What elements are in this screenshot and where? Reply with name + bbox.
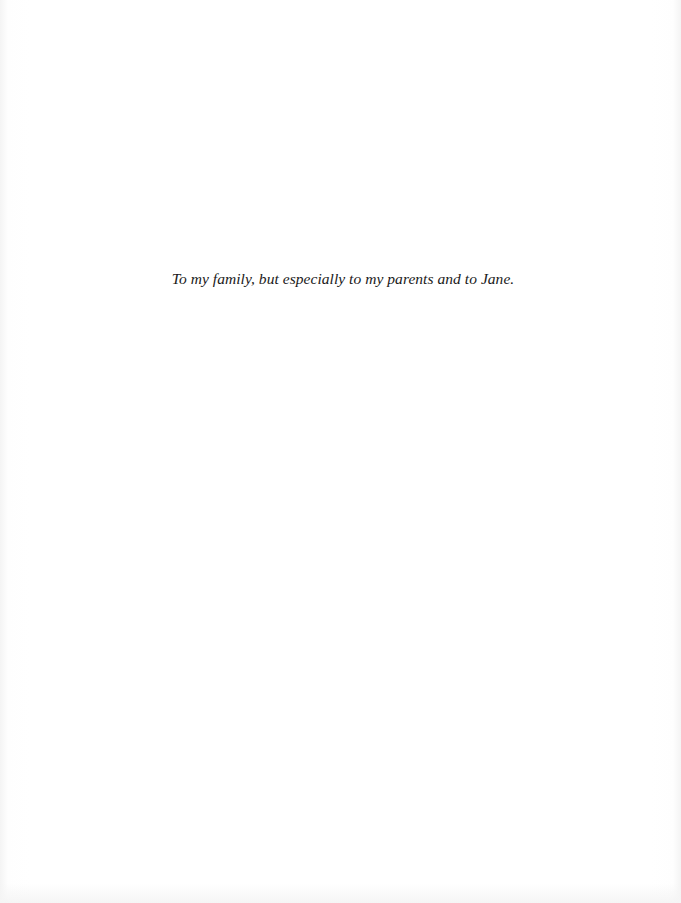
document-page: To my family, but especially to my paren… (0, 0, 681, 903)
dedication-text: To my family, but especially to my paren… (0, 269, 681, 289)
